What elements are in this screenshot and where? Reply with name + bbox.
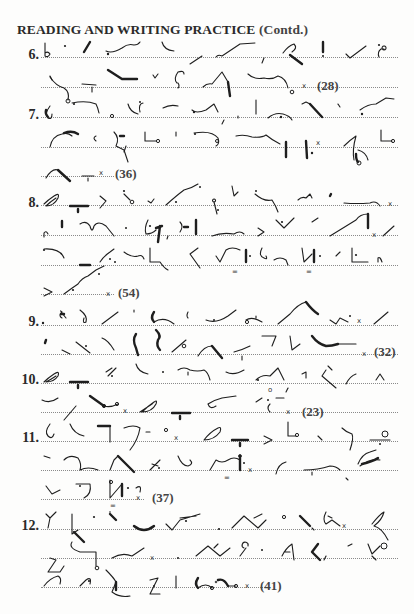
svg-text:x: x (302, 82, 306, 90)
shorthand-line-11a: x (46, 422, 390, 450)
shorthand-line-10a: o (44, 364, 384, 394)
svg-text:=: = (232, 268, 238, 276)
shorthand-line-6a (45, 42, 386, 64)
svg-text:x: x (372, 231, 376, 239)
practice-page: READING AND WRITING PRACTICE (Contd.) 6.… (0, 0, 414, 614)
svg-text:x: x (342, 522, 346, 530)
shorthand-line-8a: x (44, 184, 392, 214)
svg-text:x: x (150, 554, 154, 562)
shorthand-line-9b: x (45, 330, 366, 360)
shorthand-line-6b: x (50, 70, 306, 103)
shorthand-line-8c: x (44, 266, 110, 298)
svg-text:x: x (316, 139, 320, 147)
shorthand-line-9a: x (42, 302, 388, 325)
shorthand-line-7a (46, 98, 394, 124)
svg-text:x: x (99, 169, 103, 177)
shorthand-line-11c: x = (46, 480, 141, 510)
svg-text:x: x (248, 466, 252, 474)
svg-text:x: x (357, 317, 361, 325)
shorthand-line-7b: x (50, 130, 395, 165)
svg-text:x: x (362, 350, 366, 358)
shorthand-line-8b: x (44, 214, 394, 242)
svg-text:x: x (174, 434, 178, 442)
shorthand-line-12a: x (46, 511, 388, 542)
shorthand-line-11b: x = (44, 450, 380, 482)
svg-text:x: x (286, 408, 290, 416)
shorthand-line-7c: x (46, 169, 103, 181)
shorthand-outlines: x (0, 0, 414, 614)
svg-text:o: o (268, 386, 272, 394)
shorthand-line-12b: x (71, 542, 387, 570)
svg-text:=: = (306, 268, 312, 276)
svg-text:x: x (136, 494, 140, 502)
svg-text:x: x (245, 582, 249, 590)
svg-text:=: = (224, 474, 230, 482)
shorthand-line-10b: x x (42, 396, 290, 420)
svg-text:x: x (388, 200, 392, 208)
svg-text:=: = (110, 502, 116, 510)
svg-text:x: x (106, 290, 110, 298)
shorthand-line-12c: x (44, 558, 249, 597)
svg-text:x: x (123, 407, 127, 415)
